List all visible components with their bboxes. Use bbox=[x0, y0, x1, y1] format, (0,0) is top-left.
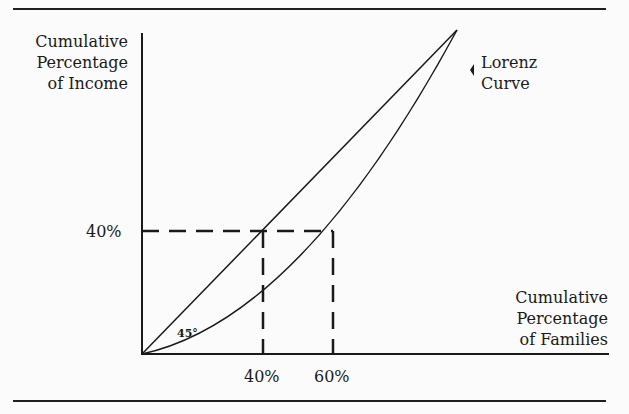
pointer-icon bbox=[470, 64, 474, 76]
equality-line bbox=[142, 30, 457, 354]
lorenz-diagram bbox=[0, 0, 629, 414]
